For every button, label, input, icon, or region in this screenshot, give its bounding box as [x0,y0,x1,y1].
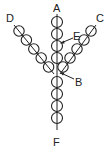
label-e: E [73,30,80,42]
label-f: F [53,136,60,148]
right-strand-bead [72,44,82,54]
left-thread [14,25,54,74]
label-a: A [53,2,61,14]
label-d: D [6,12,14,24]
label-c: C [96,12,104,24]
right-strand-bead [79,35,89,45]
label-b: B [75,76,82,88]
bead-diagram: A D C E B F [0,0,109,154]
right-strand-bead [65,53,75,63]
